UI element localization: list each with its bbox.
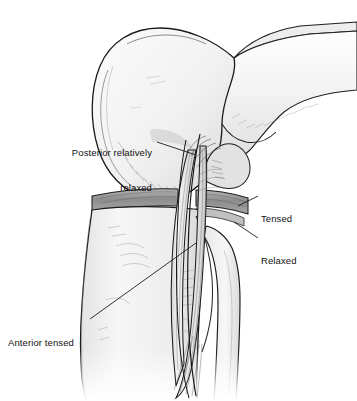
label-relaxed-line1: Relaxed xyxy=(261,255,321,267)
label-anterior-tensed: Anterior tensed xyxy=(8,314,98,372)
fibula xyxy=(204,226,248,401)
knee-anatomy-figure: Posterior relatively relaxed Tensed Rela… xyxy=(0,0,357,401)
label-anterior-tensed-line1: Anterior tensed xyxy=(8,337,98,349)
label-tensed-line1: Tensed xyxy=(261,213,321,225)
label-relaxed: Relaxed xyxy=(261,232,321,290)
leader-relaxed xyxy=(234,222,258,238)
label-posterior-relaxed: Posterior relatively relaxed xyxy=(36,124,152,216)
label-posterior-relaxed-line2: relaxed xyxy=(36,182,152,194)
label-posterior-relaxed-line1: Posterior relatively xyxy=(36,147,152,159)
